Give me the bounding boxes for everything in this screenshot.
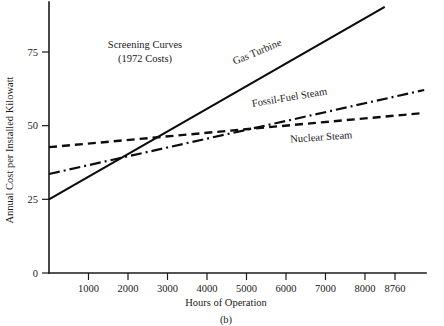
y-tick-label: 0 bbox=[33, 268, 38, 279]
screening-curves-figure: 0255075 10002000300040005000600070008000… bbox=[0, 0, 444, 326]
x-tick-label: 8760 bbox=[385, 283, 406, 294]
x-tick-label: 3000 bbox=[157, 283, 178, 294]
y-tick-label: 75 bbox=[28, 47, 39, 58]
y-tick-label: 50 bbox=[28, 120, 39, 131]
x-tick-label: 4000 bbox=[196, 283, 217, 294]
x-tick-label: 7000 bbox=[315, 283, 336, 294]
x-tick-label: 6000 bbox=[275, 283, 296, 294]
annotation-title-line1: Screening Curves bbox=[108, 39, 182, 50]
y-tick-label: 25 bbox=[28, 194, 39, 205]
chart-canvas: 0255075 10002000300040005000600070008000… bbox=[0, 0, 444, 326]
figure-caption: (b) bbox=[220, 314, 233, 326]
x-tick-label: 1000 bbox=[78, 283, 99, 294]
x-axis-title: Hours of Operation bbox=[185, 297, 267, 308]
x-tick-label: 8000 bbox=[354, 283, 375, 294]
x-tick-label: 2000 bbox=[117, 283, 138, 294]
x-tick-label: 5000 bbox=[236, 283, 257, 294]
y-axis-title: Annual Cost per Installed Kilowatt bbox=[4, 76, 15, 223]
annotation-title-line2: (1972 Costs) bbox=[118, 53, 172, 65]
chart-background bbox=[0, 0, 444, 326]
